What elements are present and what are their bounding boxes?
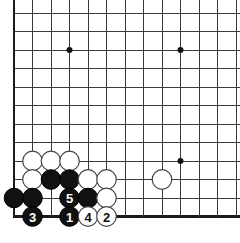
black-stone-e[interactable] <box>78 188 98 208</box>
move-number-1: 1 <box>66 210 73 225</box>
white-stone-disc <box>97 188 117 208</box>
white-stone-c[interactable] <box>60 151 80 171</box>
white-stone-g[interactable] <box>97 188 117 208</box>
black-stone-disc <box>23 188 43 208</box>
white-stone-f[interactable] <box>97 170 117 190</box>
black-move-1[interactable]: 1 <box>60 207 80 227</box>
white-stone-disc <box>97 170 117 190</box>
move-number-2: 2 <box>103 210 110 225</box>
move-number-5: 5 <box>66 191 73 206</box>
black-stone-c[interactable] <box>4 188 24 208</box>
white-move-4[interactable]: 4 <box>78 207 98 227</box>
white-stone-d[interactable] <box>23 170 43 190</box>
black-stone-disc <box>41 170 61 190</box>
black-move-3[interactable]: 3 <box>23 207 43 227</box>
white-stone-disc <box>41 151 61 171</box>
white-stone-e[interactable] <box>78 170 98 190</box>
star-point-upper-right <box>178 47 184 53</box>
black-move-5[interactable]: 5 <box>60 188 80 208</box>
white-stone-disc <box>152 170 172 190</box>
white-stone-disc <box>23 170 43 190</box>
white-stone-lone[interactable] <box>152 170 172 190</box>
black-stone-a[interactable] <box>41 170 61 190</box>
move-number-3: 3 <box>29 210 36 225</box>
white-stone-a[interactable] <box>23 151 43 171</box>
go-board[interactable]: 53142 <box>0 0 240 243</box>
white-stone-disc <box>78 170 98 190</box>
black-stone-b[interactable] <box>60 170 80 190</box>
black-stone-disc <box>4 188 24 208</box>
star-point-upper-left <box>67 47 73 53</box>
black-stone-disc <box>78 188 98 208</box>
white-stone-disc <box>23 151 43 171</box>
white-stone-b[interactable] <box>41 151 61 171</box>
black-stone-disc <box>60 170 80 190</box>
white-move-2[interactable]: 2 <box>97 207 117 227</box>
white-stone-disc <box>60 151 80 171</box>
black-stone-d[interactable] <box>23 188 43 208</box>
go-diagram: 53142 <box>0 0 240 243</box>
star-point-lower-right <box>178 158 184 164</box>
move-number-4: 4 <box>84 210 92 225</box>
